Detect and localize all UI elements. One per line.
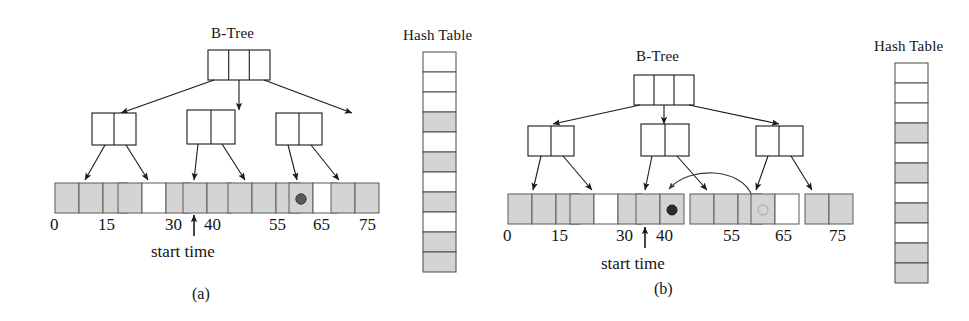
panel-b-leaf-block-5 [751,194,799,224]
panel-a-tick-65: 65 [313,216,330,233]
panel-b-leaf-block-2 [570,194,642,224]
panel-a-root-node [208,50,270,80]
panel-b-hash-table [895,63,928,283]
panel-a-hash-table [423,52,456,272]
panel-a-internal-node-1 [92,113,136,145]
panel-b-leaf-row [508,194,853,224]
panel-a-root-edges [121,80,352,113]
panel-b-tick-40: 40 [656,227,673,244]
panel-b-tick-55: 55 [723,227,740,244]
panel-b-hash-table-label: Hash Table [874,39,943,54]
panel-a-leaf-block-6 [331,183,379,213]
panel-a-tick-75: 75 [359,216,376,233]
panel-a-leaf-block-2 [118,183,190,213]
panel-a-leaf-block-1 [55,183,127,213]
panel-a-btree-label: B-Tree [211,26,254,41]
panel-a-start-time-label: start time [151,243,215,260]
panel-b-internal-node-3 [756,126,803,156]
panel-b-tick-75: 75 [829,227,846,244]
panel-b-leaf-block-1 [508,194,580,224]
panel-a-tick-15: 15 [98,216,115,233]
panel-b [508,63,928,283]
panel-b-root-edges [553,105,779,124]
panel-b-record-dot [667,205,677,215]
panel-b-btree-label: B-Tree [636,49,679,64]
panel-b-tick-15: 15 [551,227,568,244]
panel-a-tick-30: 30 [165,216,182,233]
panel-b-leaf-block-6 [805,194,853,224]
figure-root: B-Tree Hash Table 0 15 30 40 55 65 75 st… [0,0,969,321]
panel-a-tick-0: 0 [50,216,59,233]
figure-canvas [0,0,969,321]
panel-a-leaf-block-5 [289,183,337,213]
panel-a-internal-node-3 [276,113,322,145]
panel-a-internal-node-2 [187,110,235,144]
panel-a-tick-40: 40 [204,216,221,233]
panel-a-hash-table-label: Hash Table [403,28,472,43]
panel-a-caption: (a) [192,286,210,302]
panel-a-leaf-block-3 [183,183,231,213]
panel-b-start-time-label: start time [601,255,665,272]
panel-b-leaf-block-3 [636,194,684,224]
panel-a-record-dot [296,194,306,204]
panel-b-caption: (b) [654,281,673,297]
panel-a-leaf-edges [85,144,339,180]
panel-b-internal-node-1 [528,126,574,156]
panel-b-tick-30: 30 [616,227,633,244]
panel-a-tick-55: 55 [269,216,286,233]
panel-b-internal-node-2 [641,124,689,156]
panel-b-tick-0: 0 [503,227,512,244]
panel-a [55,50,456,272]
panel-a-leaf-row [55,183,379,213]
panel-b-curved-pointer-arrow [669,173,752,196]
panel-b-tick-65: 65 [775,227,792,244]
panel-b-root-node [634,75,694,105]
